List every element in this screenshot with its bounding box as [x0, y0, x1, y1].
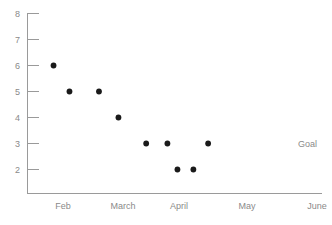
x-tick-label-june: June [296, 201, 332, 211]
data-point [51, 63, 57, 69]
data-point [143, 141, 149, 147]
data-point-group [51, 63, 211, 173]
scatter-chart: 8 7 6 5 4 3 2 Feb March April May June G… [0, 0, 332, 225]
goal-annotation-label: Goal [298, 139, 317, 149]
plot-area [0, 0, 332, 225]
y-tick-label-5: 5 [6, 87, 20, 97]
data-point [116, 115, 122, 121]
data-point [175, 167, 181, 173]
x-tick-label-march: March [101, 201, 145, 211]
y-tick-label-8: 8 [6, 9, 20, 19]
y-tick-label-6: 6 [6, 61, 20, 71]
y-tick-label-2: 2 [6, 165, 20, 175]
data-point [96, 89, 102, 95]
y-axis-ticks [28, 14, 40, 170]
data-point [190, 167, 196, 173]
x-tick-label-may: May [226, 201, 268, 211]
data-point [165, 141, 171, 147]
y-tick-label-3: 3 [6, 139, 20, 149]
data-point [205, 141, 211, 147]
y-tick-label-4: 4 [6, 113, 20, 123]
data-point [67, 89, 73, 95]
x-tick-label-april: April [158, 201, 200, 211]
y-tick-label-7: 7 [6, 35, 20, 45]
x-tick-label-feb: Feb [42, 201, 84, 211]
